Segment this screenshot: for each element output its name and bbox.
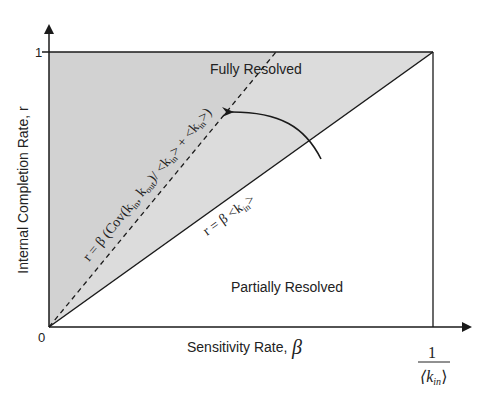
origin-label: 0 (38, 330, 45, 345)
x-axis-symbol: β (291, 336, 302, 359)
y-axis-label: Internal Completion Rate, r (15, 106, 31, 274)
fully-resolved-label: Fully Resolved (210, 61, 302, 77)
x-tick-denominator: ⟨kin⟩ (420, 368, 447, 387)
x-axis-label: Sensitivity Rate, (187, 339, 287, 355)
partially-resolved-label: Partially Resolved (231, 279, 343, 295)
x-tick-numerator: 1 (428, 344, 436, 361)
y-tick-1: 1 (35, 45, 42, 60)
phase-diagram: 1 0 Fully Resolved Partially Resolved In… (0, 0, 493, 405)
